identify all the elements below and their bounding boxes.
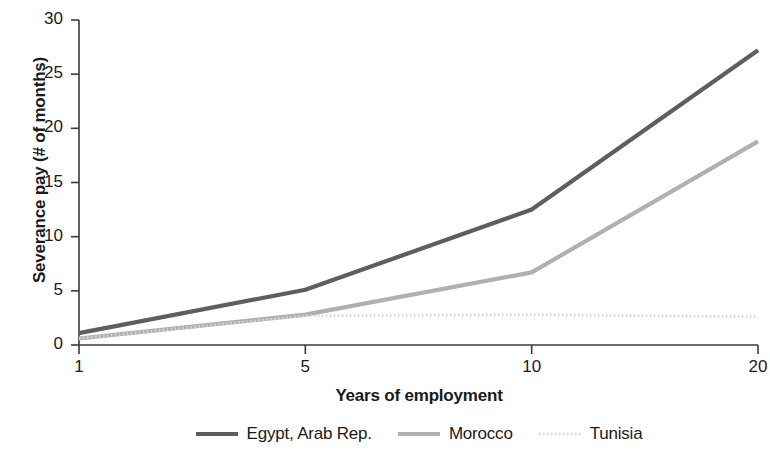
chart-legend: Egypt, Arab Rep.MoroccoTunisia — [79, 424, 759, 444]
legend-line-icon — [196, 425, 238, 443]
line-chart: Severance pay (# of months) Years of emp… — [0, 0, 770, 451]
legend-label: Tunisia — [590, 424, 643, 444]
legend-label: Egypt, Arab Rep. — [247, 424, 372, 444]
legend-line-icon — [539, 425, 581, 443]
axis-lines — [71, 20, 758, 354]
legend-item[interactable]: Tunisia — [539, 424, 643, 444]
legend-line-icon — [398, 425, 440, 443]
legend-label: Morocco — [449, 424, 513, 444]
series-line — [79, 141, 758, 338]
legend-item[interactable]: Morocco — [398, 424, 513, 444]
legend-item[interactable]: Egypt, Arab Rep. — [196, 424, 372, 444]
plot-area — [0, 0, 770, 451]
data-series-group — [79, 50, 758, 338]
series-line — [79, 50, 758, 333]
